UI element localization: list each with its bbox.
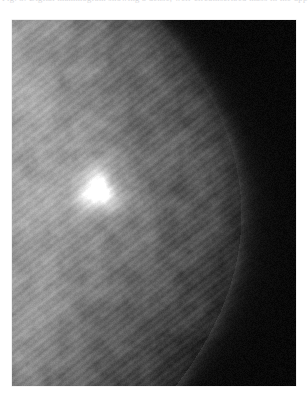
mammogram-image	[12, 20, 296, 386]
mammogram-figure	[12, 20, 296, 386]
figure-baseline-divider	[12, 386, 296, 387]
figure-caption-strip: Fig. 3. Digital mammogram showing a dens…	[0, 0, 308, 13]
figure-caption-text: Fig. 3. Digital mammogram showing a dens…	[2, 0, 308, 3]
